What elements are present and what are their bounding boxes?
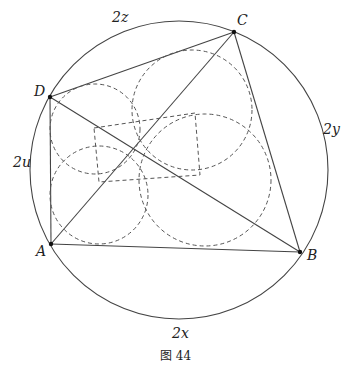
arc-label-2u: 2u [12, 154, 31, 170]
arc-label-2x: 2x [171, 325, 189, 341]
incircle-1 [50, 84, 140, 174]
label-A: A [34, 243, 46, 259]
quadrilateral-ABCD [50, 32, 300, 252]
incircle-2 [132, 50, 252, 170]
side-DA [50, 97, 51, 244]
geometry-figure: A B C D 2z 2y 2u 2x 图 44 [0, 0, 350, 370]
point-B-dot [298, 250, 302, 254]
point-C-dot [232, 30, 236, 34]
incircle-4 [139, 114, 271, 246]
point-D-dot [48, 95, 52, 99]
diagonal-BD [50, 97, 300, 252]
label-C: C [237, 12, 248, 28]
incircles [50, 50, 271, 246]
side-AB [51, 244, 300, 252]
label-B: B [306, 247, 317, 263]
arc-label-2y: 2y [322, 121, 341, 137]
label-D: D [33, 83, 45, 99]
incircle-3 [50, 146, 148, 244]
circumcircle [30, 21, 328, 319]
arc-label-2z: 2z [111, 9, 129, 25]
side-BC [234, 32, 300, 252]
point-A-dot [49, 242, 53, 246]
figure-caption: 图 44 [160, 349, 191, 363]
